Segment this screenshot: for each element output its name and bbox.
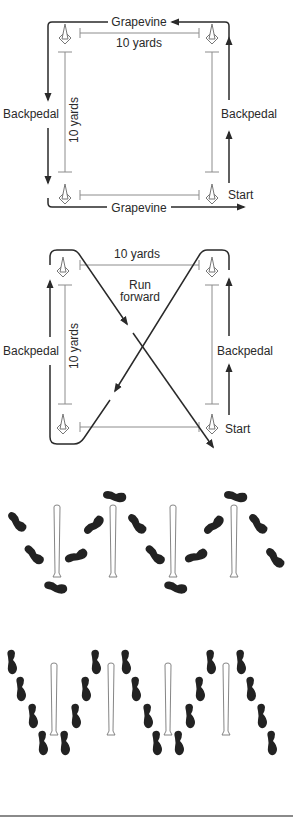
cone-icon <box>57 414 69 434</box>
top-distance-label: 10 yards <box>116 36 162 50</box>
start-label: Start <box>225 422 251 436</box>
drill-x-diagram: 10 yards Run forward Backpedal Backpedal… <box>0 220 293 465</box>
drill-box-diagram: Grapevine 10 yards Grapevine Backpedal B… <box>0 0 293 220</box>
left-path-label: Backpedal <box>3 344 59 358</box>
cone-icon <box>57 257 69 277</box>
side-distance-label: 10 yards <box>67 323 81 369</box>
bat-icon <box>164 663 172 735</box>
bat-icon <box>107 663 115 735</box>
bottom-divider <box>0 815 293 817</box>
top-path-label: Grapevine <box>111 15 167 29</box>
cone-icon <box>59 184 71 204</box>
center-label-line2: forward <box>120 290 160 304</box>
footwork-pattern-2 <box>0 630 293 780</box>
start-label: Start <box>228 188 254 202</box>
bat-icon <box>50 663 58 735</box>
footwork-pattern-1 <box>0 470 293 610</box>
cone-icon <box>59 24 71 44</box>
footprints <box>4 491 287 594</box>
bottom-path-label: Grapevine <box>111 201 167 215</box>
bat-icon <box>169 505 177 577</box>
footprints <box>7 650 277 755</box>
bat-icon <box>109 505 117 577</box>
bat-icon <box>230 505 238 577</box>
cone-icon <box>206 257 218 277</box>
side-distance-label: 10 yards <box>67 97 81 143</box>
distance-markers <box>58 28 219 200</box>
left-path-label: Backpedal <box>3 107 59 121</box>
right-path-label: Backpedal <box>217 344 273 358</box>
right-path-label: Backpedal <box>221 107 277 121</box>
cone-icon <box>206 414 218 434</box>
top-distance-label: 10 yards <box>114 247 160 261</box>
cone-icon <box>206 184 218 204</box>
cone-icon <box>206 24 218 44</box>
bat-icon <box>222 663 230 735</box>
bat-icon <box>53 505 61 577</box>
